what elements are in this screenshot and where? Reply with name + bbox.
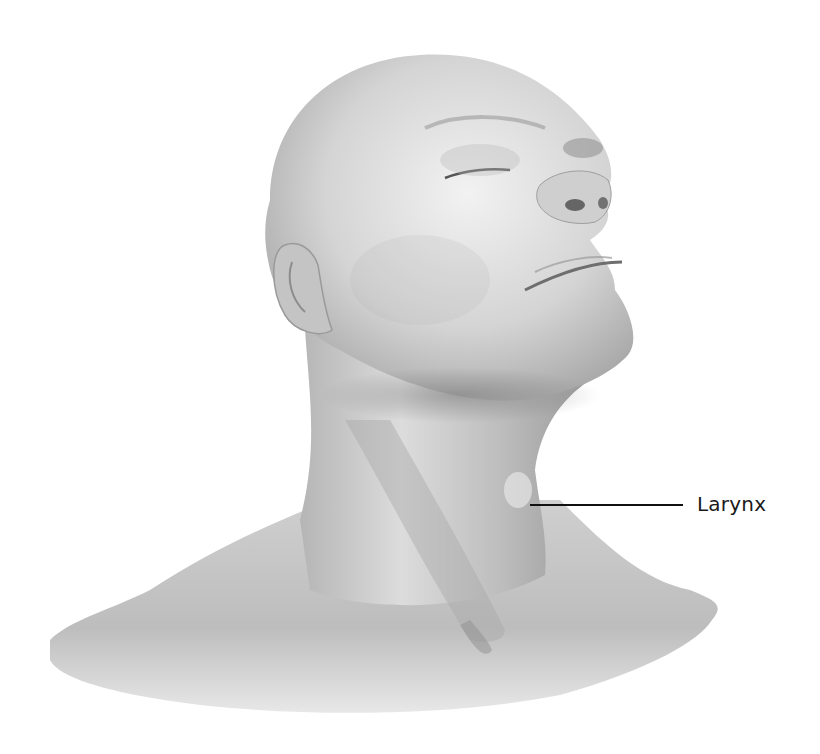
larynx-prominence — [504, 472, 532, 508]
larynx-label: Larynx — [697, 492, 766, 516]
jaw-shadow — [320, 367, 600, 423]
head-neck-illustration — [0, 0, 820, 754]
anatomy-figure: Larynx — [0, 0, 820, 754]
